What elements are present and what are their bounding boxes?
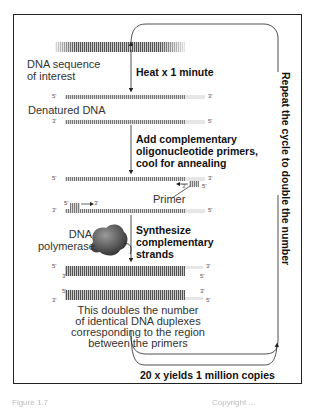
end-label: 5' [52,93,56,99]
end-label: 3' [182,183,186,189]
end-label: 3' [52,297,56,303]
end-label: 5' [52,175,56,181]
label-result: This doubles the number of identical DNA… [58,305,218,349]
end-label: 5' [202,183,206,189]
end-label: 3' [62,273,66,279]
primer-top [189,181,199,187]
end-label: 3' [206,263,210,269]
end-label: 5' [200,273,204,279]
end-label: 5' [208,118,212,124]
figure-caption: Figure 1.7 [12,398,48,407]
label-polymerase: DNA polymerase [38,228,92,252]
step-anneal: Add complementary oligonucleotide primer… [136,133,258,169]
denatured-strand-top [65,95,205,99]
label-yield: 20 x yields 1 million copies [140,369,275,381]
step-heat: Heat x 1 minute [136,66,214,78]
end-label: 3' [52,118,56,124]
dna-polymerase-icon [91,225,128,256]
label-denatured: Denatured DNA [28,104,106,116]
end-label: 5' [206,297,210,303]
end-label: 5' [62,288,66,294]
end-label: 3' [200,288,204,294]
end-label: 3' [52,207,56,213]
duplex-2 [65,290,203,300]
label-repeat-cycle: Repeat the cycle to double the number [280,72,292,265]
end-label: 3' [94,200,98,206]
end-label: 3' [208,175,212,181]
figure-credit: Copyright ... [212,398,255,407]
end-label: 5' [64,200,68,206]
dna-double-strand [50,42,190,52]
denatured-strand-bottom [65,120,205,124]
primer-bottom [70,203,80,209]
duplex-1 [65,266,203,276]
label-primer: Primer [153,193,185,205]
end-label: 5' [208,207,212,213]
end-label: 3' [208,93,212,99]
label-dna-sequence: DNA sequence of interest [27,58,100,82]
step-synthesize: Synthesize complementary strands [136,224,214,260]
end-label: 5' [52,263,56,269]
